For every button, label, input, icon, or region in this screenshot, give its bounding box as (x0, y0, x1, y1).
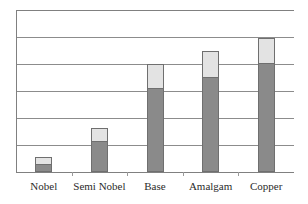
gridline (17, 145, 294, 146)
axis-tick (238, 172, 239, 176)
x-axis-label-base: Base (127, 180, 183, 193)
gridline (17, 64, 294, 65)
x-axis-label-copper: Copper (238, 180, 294, 193)
gridline (17, 37, 294, 38)
bar-chart: NobelSemi NobelBaseAmalgamCopper (0, 0, 308, 204)
gridline (17, 118, 294, 119)
axis-tick (127, 172, 128, 176)
x-axis-label-nobel: Nobel (16, 180, 72, 193)
axis-tick (183, 172, 184, 176)
x-axis-line (16, 172, 294, 173)
plot-area (16, 10, 294, 172)
x-axis-label-amalgam: Amalgam (183, 180, 239, 193)
axis-tick (72, 172, 73, 176)
x-axis-label-semi-nobel: Semi Nobel (72, 180, 128, 193)
gridline (17, 91, 294, 92)
